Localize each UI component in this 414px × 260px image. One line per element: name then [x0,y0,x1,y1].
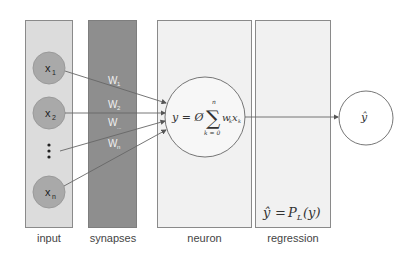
svg-text:k: k [238,118,241,124]
svg-text:P: P [287,205,297,220]
svg-text:1: 1 [117,81,121,87]
svg-text:ŷ: ŷ [262,205,271,220]
regression-formula: ŷ = P L (y) [262,205,321,222]
svg-text:(y): (y) [303,205,321,220]
svg-text:n: n [212,98,216,105]
svg-text:x: x [45,107,51,119]
svg-text:∑: ∑ [206,106,221,130]
svg-text:L: L [296,213,302,222]
svg-text:x: x [45,62,51,74]
svg-text:1: 1 [52,69,56,76]
svg-text:n: n [52,193,56,200]
input-node-xn: x n [33,176,65,208]
ellipsis-dots [47,143,50,158]
svg-text:y = Ø: y = Ø [171,111,204,124]
weight-wn: W n [108,138,120,150]
svg-text:x: x [45,186,51,198]
output-label: ŷ [360,111,368,124]
weight-w2: W 2 [108,99,121,111]
column-label-neuron: neuron [157,232,252,244]
column-label-synapses: synapses [83,232,143,244]
svg-text:2: 2 [52,114,56,121]
svg-text:...: ... [117,124,121,130]
svg-text:k = 0: k = 0 [204,129,220,136]
svg-text:=: = [275,205,286,220]
input-node-x2: x 2 [33,97,65,129]
column-label-regression: regression [250,232,336,244]
weight-w-ellipsis: W ... [108,117,121,130]
input-node-x1: x 1 [33,52,65,84]
network-diagram-svg: x 1 x 2 x n W 1 W 2 W ... W n [0,0,414,260]
svg-text:2: 2 [117,105,121,111]
svg-text:n: n [117,144,120,150]
column-label-input: input [25,232,73,244]
